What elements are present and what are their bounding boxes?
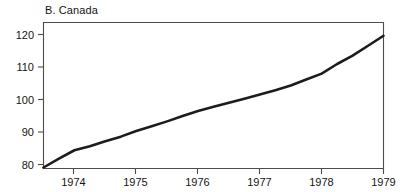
y-axis-ticks bbox=[38, 35, 44, 165]
x-axis-label-1975: 1975 bbox=[123, 176, 147, 188]
x-axis-label-1978: 1978 bbox=[309, 176, 333, 188]
plot-area-wrapper: 120 110 100 90 80 1974 1975 1976 1977 bbox=[0, 0, 412, 192]
series-line-canada bbox=[44, 36, 384, 168]
x-axis-ticks bbox=[74, 169, 384, 175]
chart-figure: B. Canada 120 110 100 90 80 bbox=[0, 0, 412, 192]
y-axis-label-110: 110 bbox=[16, 61, 34, 73]
y-axis-label-90: 90 bbox=[22, 126, 34, 138]
chart-svg: 120 110 100 90 80 1974 1975 1976 1977 bbox=[0, 0, 412, 192]
y-axis-label-120: 120 bbox=[16, 29, 34, 41]
y-axis-label-100: 100 bbox=[16, 94, 34, 106]
x-axis-label-1977: 1977 bbox=[247, 176, 271, 188]
x-axis-labels: 1974 1975 1976 1977 1978 1979 bbox=[61, 176, 395, 188]
y-axis-label-80: 80 bbox=[22, 159, 34, 171]
x-axis-label-1979: 1979 bbox=[371, 176, 395, 188]
x-axis-label-1976: 1976 bbox=[185, 176, 209, 188]
axis-frame bbox=[44, 23, 384, 169]
y-axis-labels: 120 110 100 90 80 bbox=[16, 29, 34, 171]
x-axis-label-1974: 1974 bbox=[61, 176, 85, 188]
